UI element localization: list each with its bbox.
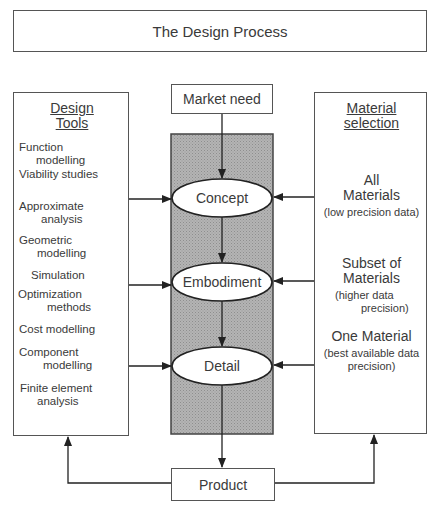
tool-item-text: methods: [18, 301, 91, 314]
material-option-note: (higher data: [315, 289, 428, 302]
material-option-note: (low precision data): [315, 206, 428, 219]
material-option-one: One Material (best available data precis…: [315, 329, 428, 373]
feedback-product-to-materials: [275, 435, 374, 483]
title-box: The Design Process: [13, 10, 427, 52]
tool-item-text: analysis: [20, 395, 92, 408]
tool-item-text: Finite element: [20, 382, 92, 394]
tool-item-text: Function: [19, 141, 63, 153]
stage-embodiment-label: Embodiment: [183, 274, 262, 290]
material-option-subset: Subset of Materials (higher data precisi…: [315, 256, 428, 315]
material-option-note: precision): [315, 360, 428, 373]
tool-item-text: Optimization: [18, 288, 82, 300]
stage-concept-label: Concept: [196, 190, 248, 206]
tool-item: Viability studies: [19, 168, 98, 181]
stage-concept: Concept: [172, 179, 272, 217]
material-selection-panel: Material selection All Materials (low pr…: [314, 92, 427, 434]
tool-item-text: Approximate: [19, 200, 84, 212]
material-option-note: precision): [315, 302, 428, 315]
product-label: Product: [199, 477, 247, 493]
design-tools-panel: Design Tools Function modelling Viabilit…: [13, 92, 129, 436]
tool-item: Optimization methods: [18, 288, 91, 314]
tool-item: Approximate analysis: [19, 200, 84, 226]
tool-item: Function modelling: [19, 141, 85, 167]
tool-item-text: modelling: [19, 247, 86, 260]
heading-line: Material: [315, 101, 428, 116]
product-box: Product: [171, 468, 275, 501]
tool-item-text: Geometric: [19, 234, 72, 246]
tool-item-text: Component: [19, 346, 78, 358]
stage-detail: Detail: [172, 347, 272, 385]
tool-item-text: modelling: [19, 154, 85, 167]
material-option-title: One Material: [315, 329, 428, 344]
material-option-all: All Materials (low precision data): [315, 173, 428, 219]
material-option-title: Subset of: [315, 256, 428, 271]
heading-line: Tools: [14, 116, 130, 131]
tool-item: Cost modelling: [19, 323, 95, 336]
feedback-product-to-tools: [68, 437, 171, 483]
tool-item: Finite element analysis: [20, 382, 92, 408]
stage-detail-label: Detail: [204, 358, 240, 374]
diagram-title: The Design Process: [152, 23, 287, 40]
market-need-box: Market need: [171, 84, 273, 114]
tool-item-text: modelling: [19, 359, 92, 372]
heading-line: selection: [315, 116, 428, 131]
material-selection-heading: Material selection: [315, 101, 428, 131]
tool-item-text: Cost modelling: [19, 323, 95, 335]
material-option-title: Materials: [315, 271, 428, 286]
tool-item: Component modelling: [19, 346, 92, 372]
design-tools-heading: Design Tools: [14, 101, 130, 131]
material-option-title: All: [315, 173, 428, 188]
tool-item-text: Simulation: [31, 269, 85, 281]
tool-item-text: analysis: [19, 213, 84, 226]
material-option-note: (best available data: [315, 347, 428, 360]
material-option-title: Materials: [315, 188, 428, 203]
market-need-label: Market need: [183, 91, 261, 107]
tool-item-text: Viability studies: [19, 168, 98, 180]
tool-item: Geometric modelling: [19, 234, 86, 260]
tool-item: Simulation: [31, 269, 85, 282]
stage-embodiment: Embodiment: [172, 263, 272, 301]
heading-line: Design: [14, 101, 130, 116]
